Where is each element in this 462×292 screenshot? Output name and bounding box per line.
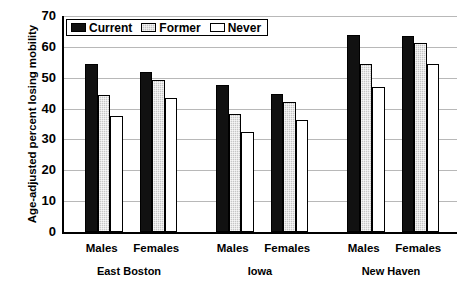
bar: [283, 102, 296, 232]
bar: [241, 132, 254, 232]
gridline: [64, 109, 457, 110]
y-axis-tick-label: 60: [14, 40, 56, 53]
y-axis-tick-label: 50: [14, 71, 56, 84]
legend-item-never: Never: [210, 22, 261, 34]
bar: [271, 94, 284, 232]
legend-label: Former: [159, 22, 200, 34]
bar: [216, 85, 229, 232]
bar: [140, 72, 153, 232]
gridline: [64, 47, 457, 48]
bar: [414, 43, 427, 232]
y-axis-tick-label: 0: [14, 225, 56, 238]
x-axis-group-label: Iowa: [248, 265, 272, 277]
bar: [229, 114, 242, 232]
bar: [85, 64, 98, 232]
bar: [372, 87, 385, 232]
bar: [360, 64, 373, 232]
legend-item-former: Former: [141, 22, 200, 34]
bar-chart: Age-adjusted percent losing mobility 706…: [0, 0, 462, 292]
bar: [347, 35, 360, 232]
x-axis-sub-label: Males: [217, 242, 249, 254]
gridline: [64, 78, 457, 79]
y-axis-tick-label: 20: [14, 163, 56, 176]
bar: [427, 64, 440, 232]
bar: [402, 36, 415, 232]
x-axis-group-label: East Boston: [97, 265, 161, 277]
x-axis-sub-label: Males: [86, 242, 118, 254]
bar: [152, 80, 165, 232]
bar: [165, 98, 178, 232]
gridline: [64, 201, 457, 202]
plot-area: [62, 16, 457, 234]
x-axis-sub-label: Females: [264, 242, 310, 254]
x-axis-sub-label: Females: [133, 242, 179, 254]
plot-background: [64, 16, 457, 232]
y-axis-tick-label: 70: [14, 9, 56, 22]
black-filled-swatch: [71, 23, 86, 32]
legend-label: Never: [228, 22, 261, 34]
x-axis-group-label: New Haven: [362, 265, 421, 277]
legend-label: Current: [89, 22, 132, 34]
gridline: [64, 16, 457, 17]
white-empty-swatch: [210, 23, 225, 32]
y-axis-tick-label: 40: [14, 102, 56, 115]
gridline: [64, 139, 457, 140]
bar: [110, 116, 123, 232]
gridline: [64, 170, 457, 171]
y-axis-tick-label: 30: [14, 132, 56, 145]
bar: [296, 120, 309, 232]
chart-legend: CurrentFormerNever: [66, 19, 268, 36]
x-axis-sub-label: Males: [348, 242, 380, 254]
bar: [98, 95, 111, 232]
x-axis-sub-label: Females: [395, 242, 441, 254]
legend-item-current: Current: [71, 22, 132, 34]
y-axis-tick-label: 10: [14, 194, 56, 207]
gray-hatched-swatch: [141, 23, 156, 32]
